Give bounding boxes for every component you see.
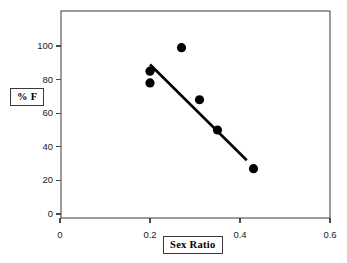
data-point (213, 125, 222, 134)
x-axis-ticks (60, 218, 330, 223)
scatter-chart: 020406080100 00.20.40.6 % F Sex Ratio (0, 0, 347, 263)
data-point (145, 78, 154, 87)
data-point (195, 95, 204, 104)
data-point (145, 67, 154, 76)
y-tick-label-0: 0 (13, 209, 53, 219)
data-point (177, 43, 186, 52)
y-tick-label-40: 40 (13, 142, 53, 152)
y-tick-label-20: 20 (13, 175, 53, 185)
y-axis-title: % F (10, 88, 44, 106)
x-axis-title: Sex Ratio (163, 236, 223, 254)
plot-frame (61, 11, 330, 218)
y-tick-label-60: 60 (13, 108, 53, 118)
data-point (249, 164, 258, 173)
y-tick-label-100: 100 (13, 41, 53, 51)
y-tick-label-80: 80 (13, 75, 53, 85)
y-axis-ticks (56, 46, 61, 214)
x-tick-label-0.6: 0.6 (310, 230, 347, 240)
x-tick-label-0.4: 0.4 (220, 230, 260, 240)
x-tick-label-0: 0 (40, 230, 80, 240)
